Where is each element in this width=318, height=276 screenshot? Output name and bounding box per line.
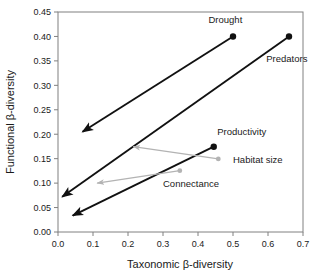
data-point-marker — [177, 168, 182, 173]
series-label-predators: Predators — [266, 53, 307, 64]
y-tick-label: 0.00 — [33, 227, 51, 237]
x-tick-label: 0.5 — [227, 239, 240, 249]
series-label-productivity: Productivity — [217, 126, 266, 137]
x-tick-label: 0.2 — [122, 239, 135, 249]
series-label-drought: Drought — [209, 14, 243, 25]
x-tick-label: 0.3 — [157, 239, 170, 249]
x-tick-label: 0.1 — [87, 239, 100, 249]
x-tick-label: 0.0 — [52, 239, 65, 249]
y-tick-label: 0.40 — [33, 32, 51, 42]
y-tick-label: 0.15 — [33, 154, 51, 164]
data-point-marker — [286, 33, 292, 39]
y-axis-title: Functional β-diversity — [4, 69, 16, 174]
beta-diversity-scatter-figure: 0.00.10.20.30.40.50.60.7 0.000.050.100.1… — [0, 0, 318, 276]
y-tick-label: 0.45 — [33, 7, 51, 17]
x-tick-label: 0.7 — [297, 239, 310, 249]
x-tick-label: 0.4 — [192, 239, 205, 249]
x-tick-label: 0.6 — [262, 239, 275, 249]
y-tick-label: 0.25 — [33, 105, 51, 115]
chart-canvas: 0.00.10.20.30.40.50.60.7 0.000.050.100.1… — [0, 0, 318, 276]
y-tick-label: 0.10 — [33, 178, 51, 188]
series-label-habitat-size: Habitat size — [233, 154, 283, 165]
data-point-marker — [216, 157, 221, 162]
series-label-connectance: Connectance — [163, 178, 219, 189]
y-tick-label: 0.35 — [33, 56, 51, 66]
y-tick-label: 0.30 — [33, 81, 51, 91]
y-tick-label: 0.20 — [33, 130, 51, 140]
y-tick-label: 0.05 — [33, 203, 51, 213]
data-point-marker — [230, 33, 236, 39]
x-axis-title: Taxonomic β-diversity — [127, 258, 233, 270]
data-point-marker — [211, 143, 217, 149]
